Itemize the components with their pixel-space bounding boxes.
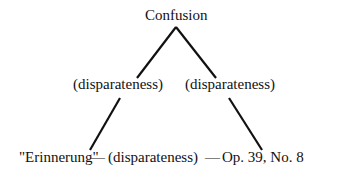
edge-lower-right: [229, 98, 262, 150]
edge-label-bottom: (disparateness): [108, 150, 198, 165]
edge-lower-left: [90, 98, 120, 150]
triangle-edges: [0, 0, 353, 169]
edge-label-right: (disparateness): [185, 77, 275, 92]
edge-top-left: [137, 27, 176, 78]
dash-left: —: [90, 150, 105, 165]
node-erinnerung: "Erinnerung": [19, 150, 99, 165]
edge-top-right: [176, 27, 216, 78]
edge-label-left: (disparateness): [73, 77, 163, 92]
dash-right: —: [205, 150, 220, 165]
node-op39-no8: Op. 39, No. 8: [222, 150, 304, 165]
node-confusion: Confusion: [145, 8, 208, 23]
